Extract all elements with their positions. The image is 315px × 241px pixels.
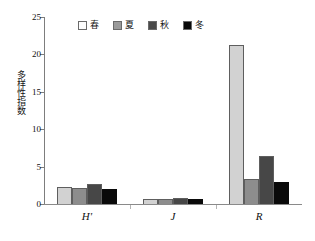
y-axis-title: 多样性指数 [14, 70, 26, 115]
y-axis-tick-label: 5 [37, 162, 42, 171]
bar-group-r [216, 17, 302, 204]
bar-chart: 春 夏 秋 冬 多样性指数 0510152025 H' J R [0, 0, 315, 241]
bar [57, 187, 72, 204]
x-axis-label-j: J [171, 210, 176, 222]
bar [72, 188, 87, 204]
bar-group-j [130, 17, 216, 204]
bar [259, 156, 274, 204]
bar [87, 184, 102, 204]
y-axis-tick-label: 20 [32, 50, 41, 59]
x-axis-line [44, 204, 302, 205]
x-axis-label-h: H' [82, 210, 92, 222]
y-axis-tick-label: 25 [32, 13, 41, 22]
bar [143, 199, 158, 204]
bar-group-h [44, 17, 130, 204]
y-axis-tick-label: 10 [32, 125, 41, 134]
x-axis-label-r: R [256, 210, 263, 222]
bar [102, 189, 117, 204]
bar [244, 179, 259, 204]
x-axis-separator [216, 205, 217, 209]
bar [274, 182, 289, 204]
bar [188, 199, 203, 204]
bar [158, 199, 173, 204]
bar [173, 198, 188, 204]
x-axis-separator [130, 205, 131, 209]
y-axis-tick-label: 15 [32, 87, 41, 96]
plot-area: 0510152025 [44, 17, 302, 205]
y-axis-tick-label: 0 [37, 200, 42, 209]
bar [229, 45, 244, 204]
